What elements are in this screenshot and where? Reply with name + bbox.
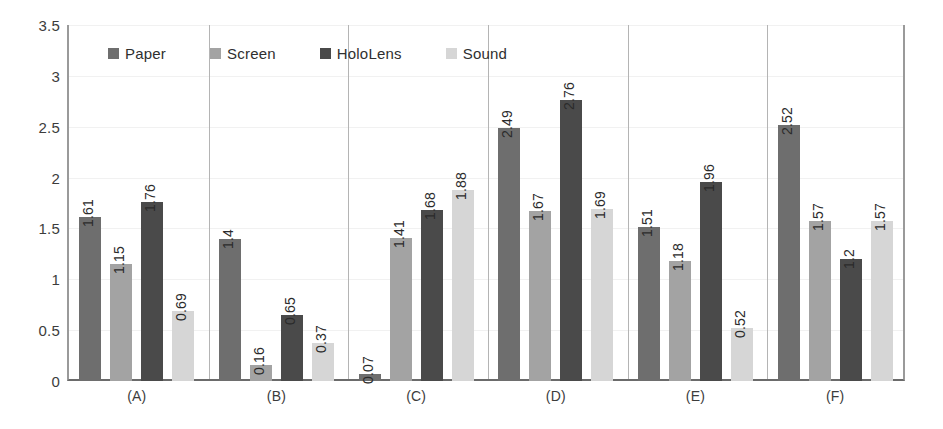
x-axis-category-labels: (A)(B)(C)(D)(E)(F) (67, 388, 905, 418)
bar (390, 238, 412, 381)
legend-item[interactable]: Sound (446, 45, 507, 62)
bar-value-label: 1.18 (670, 243, 686, 271)
bar (172, 311, 194, 381)
legend-label: Screen (227, 45, 276, 62)
x-axis-category-label: (E) (686, 388, 705, 404)
y-axis-tick-label: 2.5 (6, 118, 60, 135)
bar (700, 182, 722, 381)
bar-value-label: 1.2 (841, 249, 857, 269)
chart-legend: PaperScreenHoloLensSound (108, 45, 507, 62)
legend-swatch-icon (320, 48, 331, 59)
bar-chart: 00.511.522.533.5 1.611.151.760.691.40.16… (0, 0, 943, 429)
bar (840, 259, 862, 381)
bar-value-label: 0.52 (732, 310, 748, 338)
bar-value-label: 0.16 (251, 347, 267, 375)
legend-label: Paper (125, 45, 166, 62)
legend-swatch-icon (446, 48, 457, 59)
bar-value-label: 0.07 (360, 356, 376, 384)
bar-value-label: 1.51 (639, 209, 655, 237)
bar-value-label: 1.61 (80, 199, 96, 227)
bar-value-label: 1.88 (453, 172, 469, 200)
y-axis-tick-labels: 00.511.522.533.5 (0, 25, 60, 381)
bar-value-label: 1.76 (142, 184, 158, 212)
bar-value-label: 1.96 (701, 164, 717, 192)
legend-item[interactable]: Paper (108, 45, 166, 62)
y-axis-tick-label: 1 (6, 271, 60, 288)
bar-value-label: 1.57 (810, 203, 826, 231)
bar-value-label: 1.69 (592, 191, 608, 219)
bar (669, 261, 691, 381)
legend-item[interactable]: HoloLens (320, 45, 402, 62)
bar-value-label: 0.69 (173, 293, 189, 321)
legend-label: Sound (463, 45, 507, 62)
bar-value-label: 2.76 (561, 82, 577, 110)
y-axis-tick-label: 0 (6, 373, 60, 390)
x-axis-category-label: (D) (546, 388, 566, 404)
legend-swatch-icon (210, 48, 221, 59)
bar-value-label: 1.4 (220, 229, 236, 249)
bar-value-label: 1.15 (111, 246, 127, 274)
bar-value-label: 0.65 (282, 297, 298, 325)
bar (809, 221, 831, 381)
bar-value-label: 2.52 (779, 107, 795, 135)
bar-value-label: 1.68 (422, 192, 438, 220)
x-axis-category-label: (F) (826, 388, 844, 404)
legend-swatch-icon (108, 48, 119, 59)
bar (498, 128, 520, 381)
bar (110, 264, 132, 381)
bar (591, 209, 613, 381)
bar-value-label: 0.37 (313, 325, 329, 353)
legend-item[interactable]: Screen (210, 45, 276, 62)
y-axis-tick-label: 0.5 (6, 322, 60, 339)
bar-value-label: 1.57 (872, 203, 888, 231)
bar (219, 239, 241, 381)
x-axis-category-label: (A) (127, 388, 146, 404)
y-axis-tick-label: 3 (6, 67, 60, 84)
legend-label: HoloLens (337, 45, 402, 62)
bars-layer: 1.611.151.760.691.40.160.650.370.071.411… (67, 25, 905, 381)
bar-value-label: 1.67 (530, 193, 546, 221)
y-axis-tick-label: 1.5 (6, 220, 60, 237)
bar-value-label: 1.41 (391, 220, 407, 248)
bar (778, 125, 800, 381)
bar (79, 217, 101, 381)
bar (560, 100, 582, 381)
bar (141, 202, 163, 381)
bar (529, 211, 551, 381)
bar (421, 210, 443, 381)
x-axis-category-label: (C) (406, 388, 426, 404)
x-axis-category-label: (B) (267, 388, 286, 404)
bar (452, 190, 474, 381)
bar (638, 227, 660, 381)
y-axis-tick-label: 3.5 (6, 17, 60, 34)
y-axis-tick-label: 2 (6, 169, 60, 186)
bar (871, 221, 893, 381)
bar-value-label: 2.49 (499, 110, 515, 138)
